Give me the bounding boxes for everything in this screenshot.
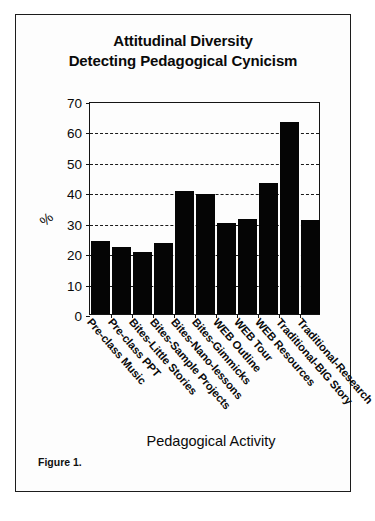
y-axis-tick-label: 10 <box>67 278 82 293</box>
y-axis-tick-label: 30 <box>67 217 82 232</box>
figure-caption: Figure 1. <box>38 456 82 468</box>
x-axis-title: Pedagogical Activity <box>16 433 350 449</box>
bar <box>280 122 299 314</box>
x-axis-category-labels: Pre-class MusicPre-class PPTBites-Little… <box>89 316 349 441</box>
y-axis-tick-label: 20 <box>67 248 82 263</box>
bars-group <box>90 103 319 314</box>
chart-title: Attitudinal Diversity Detecting Pedagogi… <box>16 31 350 71</box>
y-axis-tick-label: 60 <box>67 126 82 141</box>
figure-frame: Attitudinal Diversity Detecting Pedagogi… <box>15 14 351 492</box>
y-axis-tick-label: 50 <box>67 156 82 171</box>
bar <box>196 194 215 314</box>
chart-title-line-2: Detecting Pedagogical Cynicism <box>16 51 350 71</box>
y-axis-tick-label: 0 <box>74 309 82 324</box>
bar <box>301 220 320 314</box>
y-axis-tick-label: 40 <box>67 187 82 202</box>
bar <box>238 219 257 314</box>
bar <box>112 247 131 314</box>
chart-title-line-1: Attitudinal Diversity <box>16 31 350 51</box>
bar <box>217 223 236 314</box>
bar <box>133 252 152 314</box>
bar <box>259 183 278 314</box>
bar <box>175 191 194 314</box>
bar <box>154 243 173 315</box>
y-axis-tick-label: 70 <box>67 96 82 111</box>
y-axis-title: % <box>36 209 56 229</box>
plot-area: 010203040506070 <box>89 102 320 315</box>
bar <box>91 241 110 314</box>
